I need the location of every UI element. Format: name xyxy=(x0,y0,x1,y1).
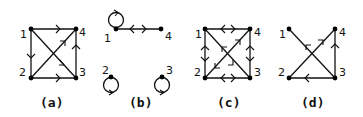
node-label-1: 1 xyxy=(104,32,111,45)
caption-b: (b) xyxy=(129,95,152,110)
node-4 xyxy=(159,27,164,32)
node-1 xyxy=(114,27,119,32)
node-2 xyxy=(203,76,208,81)
node-label-4: 4 xyxy=(254,26,261,39)
node-label-4: 4 xyxy=(165,30,172,43)
node-1 xyxy=(203,27,208,32)
node-label-2: 2 xyxy=(19,66,26,79)
arrow-down-right-icon xyxy=(228,60,233,65)
node-4 xyxy=(74,27,79,32)
panel-d: 1 4 2 3 (d) xyxy=(278,26,346,110)
self-loop-3 xyxy=(155,78,170,93)
node-1 xyxy=(287,27,292,32)
node-1 xyxy=(29,27,34,32)
node-2 xyxy=(287,76,292,81)
panel-b: 1 4 2 3 (b) xyxy=(102,10,173,110)
node-label-3: 3 xyxy=(166,64,173,77)
node-label-2: 2 xyxy=(194,66,201,79)
node-label-3: 3 xyxy=(79,66,86,79)
node-label-2: 2 xyxy=(102,64,109,77)
node-3 xyxy=(333,76,338,81)
node-label-4: 4 xyxy=(79,26,86,39)
node-2 xyxy=(109,75,114,80)
caption-d: (d) xyxy=(301,95,324,110)
panel-c: 1 4 2 3 (c) xyxy=(194,25,261,110)
node-label-1: 1 xyxy=(195,28,202,41)
node-4 xyxy=(248,27,253,32)
node-3 xyxy=(74,76,79,81)
node-label-2: 2 xyxy=(278,66,285,79)
node-2 xyxy=(29,76,34,81)
self-loop-2 xyxy=(104,78,119,93)
node-label-4: 4 xyxy=(339,26,346,39)
node-label-3: 3 xyxy=(254,66,261,79)
node-4 xyxy=(333,27,338,32)
node-label-1: 1 xyxy=(20,28,27,41)
caption-a: (a) xyxy=(40,95,63,110)
node-3 xyxy=(160,75,165,80)
node-label-1: 1 xyxy=(279,28,286,41)
graph-figure: 1 4 2 3 (a) 1 4 2 3 (b) xyxy=(0,0,363,117)
node-label-3: 3 xyxy=(339,66,346,79)
node-3 xyxy=(248,76,253,81)
caption-c: (c) xyxy=(217,95,240,110)
panel-a: 1 4 2 3 (a) xyxy=(19,25,86,110)
